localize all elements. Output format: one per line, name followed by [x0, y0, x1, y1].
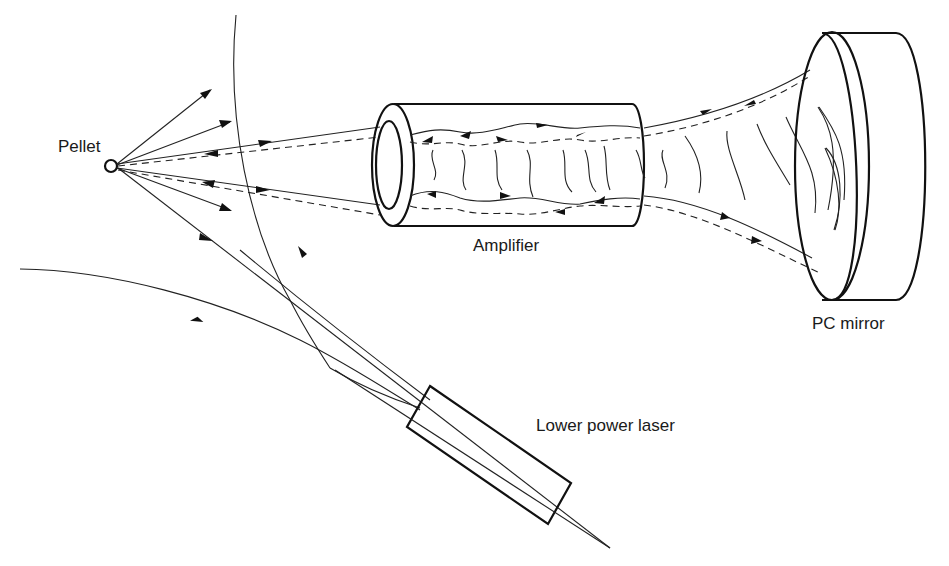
lower-beam-dashed	[118, 170, 380, 215]
upper-beam-dashed	[118, 137, 380, 166]
laser-fusion-diagram: Pellet	[0, 0, 949, 566]
diagram-canvas: Pellet	[0, 0, 949, 566]
arrow-icon	[190, 316, 204, 324]
scattered-rays	[117, 89, 232, 241]
lower-beam-solid	[117, 168, 380, 205]
mirror-beam-upper-dashed	[644, 76, 810, 136]
pellet-label: Pellet	[58, 137, 101, 156]
expanding-wavefronts	[662, 107, 845, 230]
amplifier-label: Amplifier	[473, 236, 539, 255]
mirror-beam-lower-solid	[644, 196, 812, 258]
lower-curve	[20, 269, 420, 410]
laser-label: Lower power laser	[536, 416, 675, 435]
mirror-beam-lower-dashed	[644, 205, 822, 274]
pc-mirror-label: PC mirror	[812, 314, 885, 333]
arrow-icon	[298, 246, 307, 258]
amplifier	[372, 104, 645, 226]
mirror-beam-upper-solid	[644, 70, 810, 128]
pc-mirror	[795, 32, 925, 300]
laser-axis-through	[335, 370, 610, 548]
pellet	[105, 160, 117, 172]
